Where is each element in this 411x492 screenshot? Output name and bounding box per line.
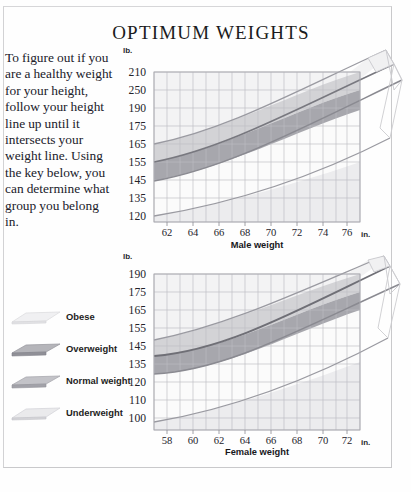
male-xtick-1: 64 xyxy=(183,227,203,238)
female-xtick-7: 72 xyxy=(337,435,357,446)
male-xtick-4: 70 xyxy=(261,227,281,238)
legend-label-normal-weight: Normal weight xyxy=(66,375,131,386)
female-xtick-0: 58 xyxy=(157,435,177,446)
legend-swatch-normal-weight-icon xyxy=(10,374,62,390)
male-ytick-1: 250 xyxy=(120,84,146,97)
male-y-axis-unit: lb. xyxy=(123,46,132,55)
male-ytick-8: 120 xyxy=(120,210,146,223)
legend-swatch-underweight-icon xyxy=(10,406,62,422)
legend-swatch-overweight-icon xyxy=(10,342,62,358)
male-ytick-0: 210 xyxy=(120,66,146,79)
legend-label-obese: Obese xyxy=(66,311,95,322)
female-x-axis-unit: in. xyxy=(361,438,370,447)
page-title: OPTIMUM WEIGHTS xyxy=(96,22,326,46)
legend-label-underweight: Underweight xyxy=(66,407,123,418)
male-x-axis-title: Male weight xyxy=(197,240,317,250)
female-ytick-1: 175 xyxy=(120,286,146,299)
male-xtick-0: 62 xyxy=(157,227,177,238)
male-weight-chart: lb. 210 250 190 175 165 155 145 135 120 … xyxy=(118,44,408,244)
female-ytick-8: 100 xyxy=(120,412,146,425)
female-x-axis-title: Female weight xyxy=(197,447,317,457)
female-ytick-5: 135 xyxy=(120,358,146,371)
legend-label-overweight: Overweight xyxy=(66,343,117,354)
male-ytick-3: 175 xyxy=(120,120,146,133)
male-xtick-5: 72 xyxy=(287,227,307,238)
legend-swatch-obese-icon xyxy=(10,310,62,326)
male-ytick-4: 165 xyxy=(120,138,146,151)
legend-item-overweight: Overweight xyxy=(8,340,120,362)
female-ytick-4: 145 xyxy=(120,340,146,353)
male-x-axis-unit: in. xyxy=(361,230,370,239)
page-root: OPTIMUM WEIGHTS To figure out if you are… xyxy=(0,0,411,492)
legend-item-obese: Obese xyxy=(8,308,120,330)
intro-paragraph: To figure out if you are a healthy weigh… xyxy=(5,50,113,230)
female-y-axis-unit: lb. xyxy=(123,252,132,261)
female-xtick-6: 70 xyxy=(313,435,333,446)
male-xtick-3: 68 xyxy=(235,227,255,238)
male-xtick-7: 76 xyxy=(337,227,357,238)
male-ytick-5: 155 xyxy=(120,156,146,169)
female-ytick-3: 155 xyxy=(120,322,146,335)
male-ytick-6: 145 xyxy=(120,174,146,187)
male-xtick-6: 74 xyxy=(313,227,333,238)
legend-item-underweight: Underweight xyxy=(8,404,120,426)
female-xtick-5: 68 xyxy=(287,435,307,446)
female-xtick-4: 66 xyxy=(261,435,281,446)
female-xtick-1: 60 xyxy=(183,435,203,446)
male-xtick-2: 66 xyxy=(209,227,229,238)
female-ytick-0: 190 xyxy=(120,268,146,281)
female-xtick-2: 62 xyxy=(209,435,229,446)
chart-legend: Obese Overweight Normal weight xyxy=(8,308,120,436)
male-ytick-2: 190 xyxy=(120,102,146,115)
female-weight-chart: lb. 190 175 165 155 145 135 120 110 100 … xyxy=(118,252,408,457)
male-ytick-7: 135 xyxy=(120,192,146,205)
female-xtick-3: 64 xyxy=(235,435,255,446)
female-ytick-2: 165 xyxy=(120,304,146,317)
female-ytick-7: 110 xyxy=(120,394,146,407)
legend-item-normal-weight: Normal weight xyxy=(8,372,120,394)
